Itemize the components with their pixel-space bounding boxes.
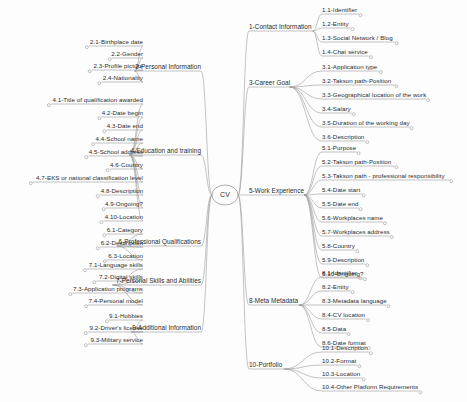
leaf-label-3.4[interactable]: 3.4-Salary — [322, 105, 351, 112]
leaf-end-dot — [450, 180, 453, 183]
leaf-label-3.3[interactable]: 3.3-Geographical location of the work — [322, 91, 426, 98]
leaf-label-4.3[interactable]: 4.3-Date end — [0, 122, 143, 129]
leaf-label-2.4[interactable]: 2.4-Nationality — [0, 74, 143, 81]
leaf-label-4.9[interactable]: 4.9-Ongoing? — [0, 200, 143, 207]
connector — [238, 87, 249, 195]
leaf-end-dot — [352, 113, 355, 116]
connector — [290, 87, 322, 113]
leaf-label-7.2[interactable]: 7.2-Digital skills — [0, 273, 143, 280]
connector — [290, 71, 322, 87]
leaf-end-dot — [351, 291, 354, 294]
leaf-label-3.2[interactable]: 3.2-Takson path-Position — [322, 77, 391, 84]
leaf-label-5.5[interactable]: 5.5-Date end — [322, 200, 358, 207]
leaf-label-5.8[interactable]: 5.8-Country — [322, 242, 355, 249]
branch-label-1[interactable]: 1-Contact Information — [249, 23, 312, 30]
connector — [284, 369, 322, 391]
leaf-label-9.2[interactable]: 9.2-Driver's license — [0, 324, 143, 331]
leaf-end-dot — [369, 352, 372, 355]
branch-label-3[interactable]: 3-Career Goal — [249, 79, 290, 86]
branch-label-8[interactable]: 8-Meta Metadata — [249, 297, 298, 304]
connector — [313, 14, 322, 31]
leaf-label-10.3[interactable]: 10.3-Location — [322, 370, 360, 377]
leaf-label-8.3[interactable]: 8.3-Metadata language — [322, 297, 387, 304]
leaf-end-dot — [106, 169, 109, 172]
leaf-label-3.6[interactable]: 3.6-Description — [322, 133, 364, 140]
connector — [299, 277, 322, 305]
leaf-label-5.3[interactable]: 5.3-Takson path - professional responsib… — [322, 172, 445, 179]
leaf-label-6.1[interactable]: 6.1-Category — [0, 226, 143, 233]
leaf-end-dot — [357, 152, 360, 155]
leaf-label-7.3[interactable]: 7.3-Application programs — [0, 285, 143, 292]
leaf-label-4.1[interactable]: 4.1-Title of qualification awarded — [0, 96, 143, 103]
leaf-label-2.2[interactable]: 2.2-Gender — [0, 50, 143, 57]
leaf-end-dot — [100, 221, 103, 224]
leaf-label-1.1[interactable]: 1.1-Identifier — [322, 6, 357, 13]
leaf-label-4.7[interactable]: 4.7-EKS or national classification level — [0, 174, 143, 181]
leaf-end-dot — [103, 234, 106, 237]
connector — [201, 195, 212, 332]
leaf-label-4.2[interactable]: 4.2-Date begin — [0, 109, 143, 116]
leaf-end-dot — [92, 143, 95, 146]
leaf-label-10.4[interactable]: 10.4-Other Platform Requirements — [322, 383, 418, 390]
leaf-end-dot — [395, 42, 398, 45]
leaf-label-1.4[interactable]: 1.4-Chat service — [322, 48, 368, 55]
leaf-label-4.10[interactable]: 4.10-Location — [0, 213, 143, 220]
leaf-end-dot — [395, 85, 398, 88]
leaf-end-dot — [358, 365, 361, 368]
leaf-end-dot — [383, 222, 386, 225]
connector — [304, 180, 322, 195]
leaf-end-dot — [362, 378, 365, 381]
leaf-end-dot — [367, 319, 370, 322]
leaf-label-5.1[interactable]: 5.1-Purpose — [322, 144, 356, 151]
leaf-label-10.2[interactable]: 10.2-Format — [322, 357, 356, 364]
branch-label-5[interactable]: 5-Work Experience — [249, 187, 304, 194]
leaf-end-dot — [105, 320, 108, 323]
leaf-label-1.3[interactable]: 1.3-Social Network / Blog — [322, 34, 393, 41]
leaf-end-dot — [84, 332, 87, 335]
leaf-label-9.1[interactable]: 9.1-Hobbies — [0, 312, 143, 319]
leaf-label-4.6[interactable]: 4.6-Country — [0, 161, 143, 168]
leaf-label-4.4[interactable]: 4.4-School name — [0, 135, 143, 142]
leaf-end-dot — [410, 127, 413, 130]
leaf-end-dot — [98, 82, 101, 85]
leaf-label-5.2[interactable]: 5.2-Takson path-Position — [322, 158, 391, 165]
leaf-end-dot — [390, 236, 393, 239]
leaf-label-8.4[interactable]: 8.4-CV location — [322, 311, 365, 318]
leaf-label-6.3[interactable]: 6.3-Location — [0, 252, 143, 259]
leaf-label-3.5[interactable]: 3.5-Duration of the working day — [322, 119, 410, 126]
connector — [304, 195, 322, 250]
connector — [304, 152, 322, 195]
leaf-end-dot — [108, 58, 111, 61]
leaf-end-dot — [395, 166, 398, 169]
leaf-end-dot — [347, 333, 350, 336]
leaf-label-4.8[interactable]: 4.8-Description — [0, 187, 143, 194]
connector — [299, 305, 322, 347]
leaf-label-5.9[interactable]: 5.9-Description — [322, 256, 364, 263]
leaf-label-5.7[interactable]: 5.7-Workplaces address — [322, 228, 390, 235]
leaf-label-10.1[interactable]: 10.1-Description — [322, 344, 368, 351]
leaf-label-5.6[interactable]: 5.6-Workplaces name — [322, 214, 383, 221]
leaf-label-2.1[interactable]: 2.1-Birthplace date — [0, 38, 143, 45]
connector — [201, 195, 212, 285]
leaf-label-8.5[interactable]: 8.5-Data — [322, 325, 346, 332]
connector — [313, 31, 322, 56]
leaf-label-6.2[interactable]: 6.2-Description — [0, 239, 143, 246]
connector — [284, 369, 322, 378]
leaf-end-dot — [419, 391, 422, 394]
leaf-label-4.5[interactable]: 4.5-School address — [0, 148, 143, 155]
leaf-end-dot — [366, 264, 369, 267]
leaf-label-5.4[interactable]: 5.4-Date start — [322, 186, 360, 193]
center-node-label: CV — [213, 191, 237, 198]
leaf-end-dot — [84, 344, 87, 347]
leaf-label-7.4[interactable]: 7.4-Personal model — [0, 297, 143, 304]
leaf-label-3.1[interactable]: 3.1-Application type — [322, 63, 377, 70]
leaf-end-dot — [96, 247, 99, 250]
branch-label-10[interactable]: 10-Portfolio — [249, 361, 282, 368]
leaf-label-8.1[interactable]: 8.1-Identifier — [322, 269, 357, 276]
leaf-label-8.2[interactable]: 8.2-Entity — [322, 283, 349, 290]
leaf-label-2.3[interactable]: 2.3-Profile picture — [0, 62, 143, 69]
leaf-label-9.3[interactable]: 9.3-Military service — [0, 336, 143, 343]
leaf-label-1.2[interactable]: 1.2-Entity — [322, 20, 349, 27]
leaf-label-7.1[interactable]: 7.1-Language skills — [0, 261, 143, 268]
leaf-end-dot — [387, 305, 390, 308]
